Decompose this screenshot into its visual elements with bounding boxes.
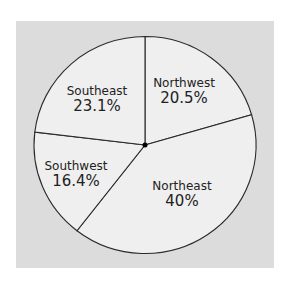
slice-percent: 23.1% (67, 98, 128, 115)
slice-label-southeast: Southeast 23.1% (67, 85, 128, 115)
pie-center-dot (143, 143, 148, 148)
slice-label-northeast: Northeast 40% (152, 180, 211, 210)
slice-label-southwest: Southwest 16.4% (44, 160, 107, 190)
slice-percent: 40% (152, 193, 211, 210)
pie-chart (0, 0, 289, 282)
slice-percent: 16.4% (44, 173, 107, 190)
slice-label-northwest: Northwest 20.5% (153, 77, 215, 107)
slice-percent: 20.5% (153, 90, 215, 107)
